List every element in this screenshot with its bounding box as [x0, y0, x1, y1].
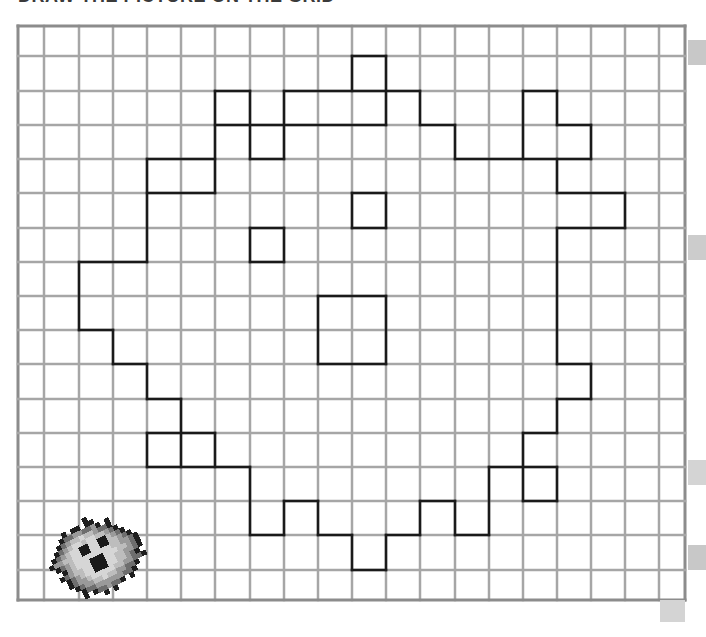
row-marker: [688, 460, 706, 485]
row-marker: [688, 235, 706, 260]
row-marker: [688, 545, 706, 570]
row-marker: [660, 600, 685, 622]
row-marker: [688, 40, 706, 65]
monster-sprite-icon: [28, 490, 168, 620]
